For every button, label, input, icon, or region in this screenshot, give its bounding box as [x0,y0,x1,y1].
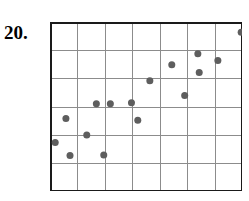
data-point [93,100,100,107]
problem-number-label: 20. [4,22,28,44]
plot-area [50,22,242,191]
data-point [67,152,74,159]
scatter-plot-figure: 20. [0,0,249,201]
data-point [83,131,90,138]
data-point [134,117,141,124]
plot-border [51,23,242,191]
data-point [128,99,135,106]
data-point [168,61,175,68]
data-point [238,29,242,36]
data-point [100,151,107,158]
data-point [181,92,188,99]
scatter-plot-canvas [50,22,242,191]
data-point [62,115,69,122]
data-point [196,69,203,76]
data-point [146,77,153,84]
data-point [214,57,221,64]
data-point [52,139,59,146]
data-point [194,50,201,57]
data-point [107,100,114,107]
